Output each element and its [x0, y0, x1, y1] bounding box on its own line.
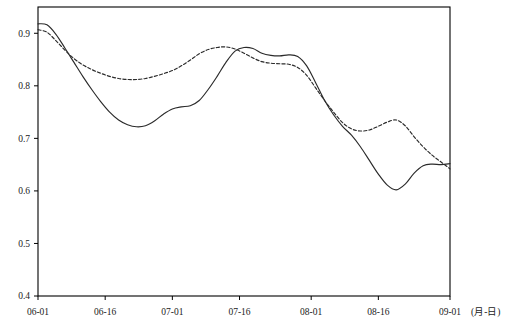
y-tick-label: 0.4 — [18, 291, 30, 301]
y-tick-label: 0.8 — [18, 81, 30, 91]
y-tick-label: 0.9 — [18, 29, 30, 39]
x-tick-label: 07-16 — [228, 307, 250, 317]
x-tick-label: 08-16 — [367, 307, 389, 317]
y-axis-tick-labels: 0.40.50.60.70.80.9 — [18, 29, 30, 302]
y-tick-label: 0.5 — [18, 239, 30, 249]
x-tick-label: 07-01 — [161, 307, 183, 317]
x-tick-label: 06-01 — [27, 307, 49, 317]
x-tick-label: 09-01 — [439, 307, 461, 317]
line-chart: 0.40.50.60.70.80.9 06-0106-1607-0107-160… — [0, 0, 510, 328]
x-tick-label: 08-01 — [300, 307, 322, 317]
y-tick-label: 0.6 — [18, 186, 30, 196]
data-line-solid — [38, 24, 450, 190]
x-tick-label: 06-16 — [94, 307, 116, 317]
x-axis-tick-labels: 06-0106-1607-0107-1608-0108-1609-01 — [27, 307, 461, 317]
x-axis-unit-label: (月-日) — [471, 307, 501, 318]
x-axis-ticks — [38, 296, 450, 300]
chart-canvas: 0.40.50.60.70.80.9 06-0106-1607-0107-160… — [0, 0, 510, 328]
y-tick-label: 0.7 — [18, 134, 30, 144]
y-axis-ticks — [34, 33, 38, 296]
plot-frame — [38, 7, 450, 296]
data-line-dashed — [38, 30, 450, 169]
